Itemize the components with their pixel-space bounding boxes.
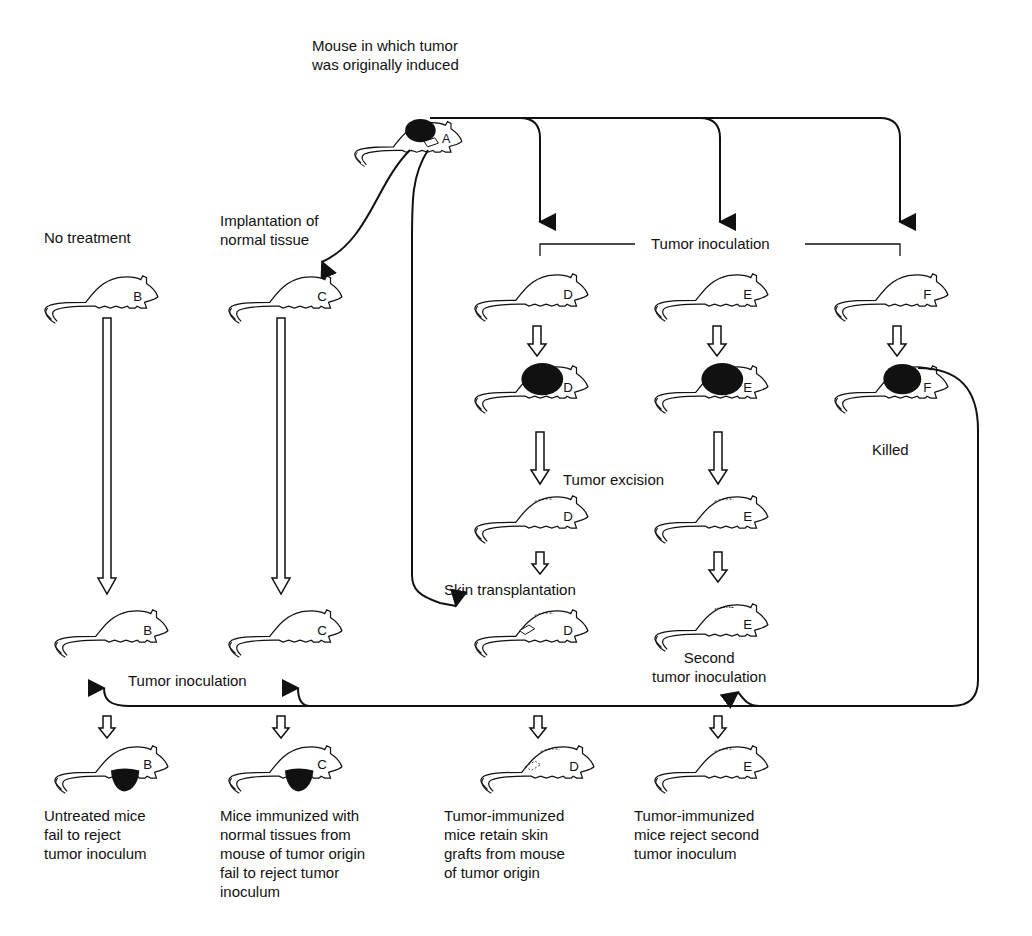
mouse-e-final: E xyxy=(655,746,768,794)
arrow-b-final xyxy=(99,716,115,738)
svg-text:F: F xyxy=(923,287,931,302)
mouse-b-pre: B xyxy=(55,610,168,658)
label-implantation: Implantation of normal tissue xyxy=(220,211,318,249)
svg-text:C: C xyxy=(317,623,327,638)
skin-graft-arrow xyxy=(412,150,456,606)
mouse-e-tumor: E xyxy=(655,363,768,413)
mouse-c-final: C xyxy=(229,746,342,794)
label-second-inoculation: Second tumor inoculation xyxy=(652,648,766,686)
svg-text:B: B xyxy=(143,623,152,638)
mouse-b-initial: B xyxy=(45,276,158,324)
implantation-arrow xyxy=(322,150,410,262)
mouse-d-final: D xyxy=(481,746,594,794)
svg-text:D: D xyxy=(563,509,573,524)
mouse-d-tumor: D xyxy=(475,363,588,413)
mouse-e-excised: E xyxy=(655,496,768,544)
label-killed: Killed xyxy=(872,440,909,459)
mouse-f-initial: F xyxy=(835,274,948,322)
arrow-e-3 xyxy=(709,552,727,582)
diagram-canvas: A B C D E F D E xyxy=(0,0,1032,936)
arrow-e-1 xyxy=(708,326,726,356)
mouse-c-initial: C xyxy=(229,276,342,324)
caption-e: Tumor-immunized mice reject second tumor… xyxy=(634,806,759,863)
caption-c: Mice immunized with normal tissues from … xyxy=(220,806,365,901)
svg-text:E: E xyxy=(743,509,752,524)
svg-text:C: C xyxy=(317,289,327,304)
arrow-d-2 xyxy=(531,432,549,484)
inoculation-to-c-arrow xyxy=(298,688,310,706)
arrow-d-final xyxy=(530,716,546,738)
branch-to-e-arrow xyxy=(700,118,720,222)
title-origin-mouse: Mouse in which tumor was originally indu… xyxy=(312,36,459,74)
label-tumor-inoculation-bottom: Tumor inoculation xyxy=(128,671,247,690)
svg-text:D: D xyxy=(563,380,573,395)
svg-text:B: B xyxy=(143,757,152,772)
label-skin-transplantation: Skin transplantation xyxy=(444,580,576,599)
svg-text:E: E xyxy=(743,759,752,774)
svg-text:B: B xyxy=(133,289,142,304)
mouse-e-initial: E xyxy=(655,274,768,322)
arrow-d-1 xyxy=(528,326,546,356)
mouse-f-tumor: F xyxy=(835,364,948,413)
svg-text:C: C xyxy=(317,757,327,772)
arrow-f-1 xyxy=(888,326,906,356)
svg-text:E: E xyxy=(743,617,752,632)
svg-text:E: E xyxy=(743,380,752,395)
svg-text:E: E xyxy=(743,287,752,302)
svg-text:D: D xyxy=(563,287,573,302)
mouse-d-excised: D xyxy=(475,496,588,544)
svg-text:F: F xyxy=(923,380,931,395)
mouse-d-initial: D xyxy=(475,274,588,322)
inoculation-to-b-arrow xyxy=(104,688,760,706)
f-loop-arrow xyxy=(738,368,978,706)
branch-to-d-arrow xyxy=(520,118,540,222)
mouse-b-final: B xyxy=(55,746,168,794)
caption-b: Untreated mice fail to reject tumor inoc… xyxy=(44,806,147,863)
branch-to-f-arrow xyxy=(430,118,900,222)
mouse-d-grafted: D xyxy=(475,610,588,658)
caption-d: Tumor-immunized mice retain skin grafts … xyxy=(444,806,565,882)
arrow-e-final xyxy=(710,716,726,738)
label-tumor-inoculation-top: Tumor inoculation xyxy=(647,234,774,253)
long-arrow-c xyxy=(272,318,290,594)
label-tumor-excision: Tumor excision xyxy=(563,470,664,489)
label-no-treatment: No treatment xyxy=(44,228,131,247)
svg-text:D: D xyxy=(569,759,579,774)
arrow-d-3 xyxy=(532,552,548,574)
mouse-e-second: E xyxy=(655,604,768,652)
long-arrow-b xyxy=(98,318,116,594)
mouse-a: A xyxy=(355,119,462,167)
mouse-c-pre: C xyxy=(229,610,342,658)
svg-text:D: D xyxy=(563,623,573,638)
arrow-e-2 xyxy=(709,432,727,484)
arrow-c-final xyxy=(273,716,289,738)
mouse-label-a: A xyxy=(442,132,451,146)
